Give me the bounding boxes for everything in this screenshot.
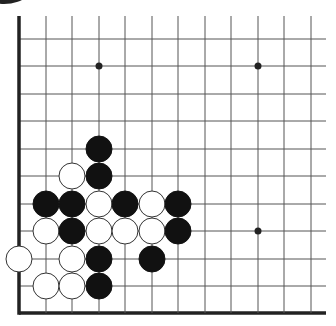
white-stone[interactable] <box>33 273 59 299</box>
black-stone[interactable] <box>86 136 112 162</box>
white-stone[interactable] <box>112 218 138 244</box>
white-stone[interactable] <box>59 273 85 299</box>
black-stone[interactable] <box>165 191 191 217</box>
black-stone[interactable] <box>86 246 112 272</box>
black-stone[interactable] <box>139 246 165 272</box>
black-stone[interactable] <box>86 163 112 189</box>
black-stone[interactable] <box>165 218 191 244</box>
black-stone[interactable] <box>86 273 112 299</box>
black-stone[interactable] <box>33 191 59 217</box>
white-stone[interactable] <box>59 163 85 189</box>
black-stone[interactable] <box>59 218 85 244</box>
black-stone[interactable] <box>59 191 85 217</box>
white-stone[interactable] <box>139 218 165 244</box>
white-stone[interactable] <box>139 191 165 217</box>
star-point-icon <box>96 63 103 70</box>
white-stone[interactable] <box>33 218 59 244</box>
star-point-icon <box>255 63 262 70</box>
white-stone[interactable] <box>59 246 85 272</box>
corner-marker-shape <box>0 0 40 4</box>
white-stone[interactable] <box>86 191 112 217</box>
white-stone[interactable] <box>86 218 112 244</box>
white-stone[interactable] <box>6 246 32 272</box>
corner-marker <box>0 0 40 4</box>
black-stone[interactable] <box>112 191 138 217</box>
star-point-icon <box>255 228 262 235</box>
go-board[interactable] <box>0 0 336 326</box>
